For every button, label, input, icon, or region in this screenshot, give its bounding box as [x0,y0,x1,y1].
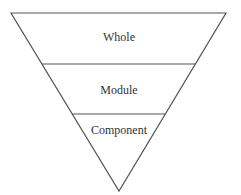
level-label-module: Module [100,84,137,96]
level-label-component: Component [91,124,147,136]
inverted-pyramid-diagram: Whole Module Component [0,0,241,195]
level-label-whole: Whole [103,31,135,43]
